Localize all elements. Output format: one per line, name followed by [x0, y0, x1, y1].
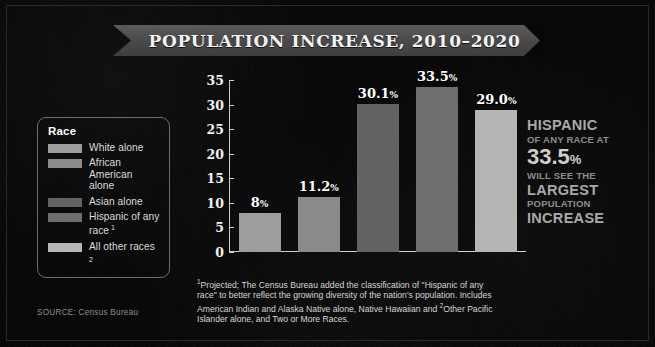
bar-value-label: 30.1%	[358, 86, 398, 101]
bar-value-number: 11.2	[299, 179, 331, 194]
bar-value-label: 8%	[251, 195, 269, 210]
bar	[239, 213, 281, 252]
y-axis-tick-mark	[229, 252, 234, 253]
page-title: POPULATION INCREASE, 2010–2020	[137, 31, 521, 51]
legend-item: All other races 2	[48, 241, 160, 268]
legend-item-label: White alone	[89, 142, 143, 153]
y-axis-tick-label: 35	[196, 73, 224, 88]
footnote-marker-2: 2	[440, 302, 444, 309]
legend-item: Hispanic of any race 1	[48, 211, 160, 237]
callout-line-2: OF ANY RACE AT	[527, 135, 645, 145]
source-credit: SOURCE: Census Bureau	[37, 308, 138, 317]
legend-footnote-marker: 2	[89, 256, 93, 263]
legend-swatch	[48, 213, 82, 222]
bar	[416, 87, 458, 252]
bar-column: 30.1%	[357, 80, 399, 252]
legend-swatch	[48, 243, 82, 252]
legend-items: White aloneAfrican American aloneAsian a…	[48, 142, 160, 268]
bar-value-percent: %	[449, 73, 458, 83]
bar-column: 29.0%	[475, 80, 517, 252]
bar-chart: 05101520253035 8%11.2%30.1%33.5%29.0%	[196, 80, 526, 266]
y-axis-tick-label: 20	[196, 146, 224, 161]
callout-value-number: 33.5	[527, 144, 570, 169]
legend-footnote-marker: 1	[109, 224, 115, 231]
infographic-poster: POPULATION INCREASE, 2010–2020 Race Whit…	[0, 0, 655, 347]
y-axis-tick-label: 5	[196, 220, 224, 235]
legend-item-label: Asian alone	[89, 196, 143, 207]
footnote: 1Projected; The Census Bureau added the …	[197, 277, 500, 324]
bar-value-label: 33.5%	[417, 69, 457, 84]
callout-line-1: HISPANIC	[527, 118, 645, 133]
legend-swatch	[48, 144, 82, 153]
bar-value-number: 30.1	[358, 86, 390, 101]
legend-swatch	[48, 159, 82, 168]
callout-line-7: INCREASE	[527, 211, 645, 226]
bar-value-percent: %	[330, 183, 339, 193]
bar-value-label: 11.2%	[299, 179, 339, 194]
callout-line-6: POPULATION	[527, 199, 645, 209]
legend-item: African American alone	[48, 157, 160, 191]
legend-item-label: Hispanic of any race 1	[89, 211, 160, 237]
callout-line-5: LARGEST	[527, 183, 645, 198]
bar-value-percent: %	[508, 96, 517, 106]
legend-item-label: All other races 2	[89, 241, 160, 268]
bar-value-percent: %	[390, 90, 399, 100]
y-axis-tick-label: 0	[196, 245, 224, 260]
title-banner: POPULATION INCREASE, 2010–2020	[113, 25, 544, 56]
footnote-marker-1: 1	[197, 278, 201, 285]
callout-value: 33.5%	[527, 146, 645, 168]
bar-value-number: 29.0	[476, 92, 508, 107]
bar-column: 11.2%	[298, 80, 340, 252]
callout-panel: HISPANIC OF ANY RACE AT 33.5% WILL SEE T…	[527, 118, 645, 228]
bar	[475, 110, 517, 253]
bar-column: 8%	[239, 80, 281, 252]
legend-item-label: African American alone	[89, 157, 160, 191]
legend-item: Asian alone	[48, 196, 160, 207]
y-axis-tick-label: 25	[196, 122, 224, 137]
legend-item: White alone	[48, 142, 160, 153]
bar-series: 8%11.2%30.1%33.5%29.0%	[230, 80, 526, 252]
bar-value-number: 8	[251, 195, 260, 210]
bar-value-label: 29.0%	[476, 92, 516, 107]
y-axis-tick-label: 30	[196, 97, 224, 112]
legend-swatch	[48, 198, 82, 207]
bar-value-number: 33.5	[417, 69, 449, 84]
y-axis-tick-label: 15	[196, 171, 224, 186]
callout-value-percent: %	[570, 152, 582, 167]
callout-line-4: WILL SEE THE	[527, 171, 645, 181]
bar	[298, 197, 340, 252]
y-axis-tick-label: 10	[196, 195, 224, 210]
bar-value-percent: %	[260, 199, 269, 209]
bar	[357, 104, 399, 252]
legend-heading: Race	[48, 125, 160, 137]
bar-column: 33.5%	[416, 80, 458, 252]
legend: Race White aloneAfrican American aloneAs…	[37, 117, 170, 278]
